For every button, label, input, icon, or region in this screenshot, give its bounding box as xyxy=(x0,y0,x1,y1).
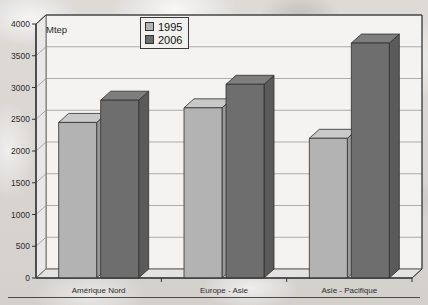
page-rule xyxy=(8,297,420,298)
legend-label-1995: 1995 xyxy=(158,21,182,33)
y-tick-label: 3000 xyxy=(0,84,30,93)
bar-side-2006-0 xyxy=(139,91,149,278)
y-tick-label: 1000 xyxy=(0,211,30,220)
bar-side-2006-1 xyxy=(264,75,274,278)
legend-label-2006: 2006 xyxy=(158,34,182,46)
legend-swatch-2006 xyxy=(145,35,154,44)
bar-front-2006-0 xyxy=(101,100,139,278)
bar-front-2006-2 xyxy=(351,43,389,278)
bar-front-1995-1 xyxy=(184,108,222,278)
bar-front-2006-1 xyxy=(226,84,264,278)
y-tick-label: 500 xyxy=(0,242,30,251)
axis-unit-label: Mtep xyxy=(46,25,67,35)
bar-front-1995-0 xyxy=(59,122,97,278)
x-tick-label: Amérique Nord xyxy=(36,287,161,295)
chart-legend: 1995 2006 xyxy=(140,17,189,49)
legend-swatch-1995 xyxy=(145,22,154,31)
x-tick-label: Asie - Pacifique xyxy=(287,287,412,295)
y-tick-label: 0 xyxy=(0,274,30,283)
chart-svg xyxy=(0,0,428,305)
y-tick-label: 4000 xyxy=(0,20,30,29)
bar-front-1995-2 xyxy=(309,138,347,278)
x-tick-label: Europe - Asie xyxy=(161,287,286,295)
y-tick-label: 2000 xyxy=(0,147,30,156)
chart-figure: Mtep 1995 2006 0500100015002000250030003… xyxy=(0,0,428,305)
legend-item: 1995 xyxy=(145,20,182,33)
y-tick-label: 3500 xyxy=(0,52,30,61)
legend-item: 2006 xyxy=(145,33,182,46)
bar-side-2006-2 xyxy=(389,34,399,278)
y-tick-label: 1500 xyxy=(0,179,30,188)
y-tick-label: 2500 xyxy=(0,115,30,124)
